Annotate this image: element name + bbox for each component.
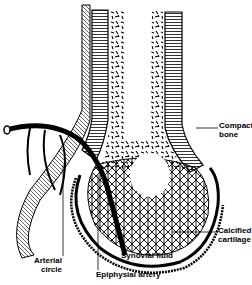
bone-illustration — [0, 0, 252, 285]
label-compact-bone-line2: bone — [219, 130, 252, 139]
anatomy-diagram: Compact bone Calcified cartilage Synovia… — [0, 0, 252, 285]
label-calcified-cartilage-line1: Calcified — [218, 226, 251, 235]
label-arterial-circle: Arterial circle — [33, 256, 62, 274]
label-compact-bone-line1: Compact — [219, 121, 252, 130]
label-compact-bone: Compact bone — [219, 121, 252, 139]
label-calcified-cartilage: Calcified cartilage — [218, 226, 251, 244]
label-calcified-cartilage-line2: cartilage — [218, 235, 251, 244]
label-synovial-fluid: Synovial fluid — [121, 251, 173, 260]
label-epiphysial-artery: Epiphysial artery — [96, 270, 160, 279]
label-arterial-circle-line1: Arterial — [33, 256, 62, 265]
label-arterial-circle-line2: circle — [33, 265, 62, 274]
